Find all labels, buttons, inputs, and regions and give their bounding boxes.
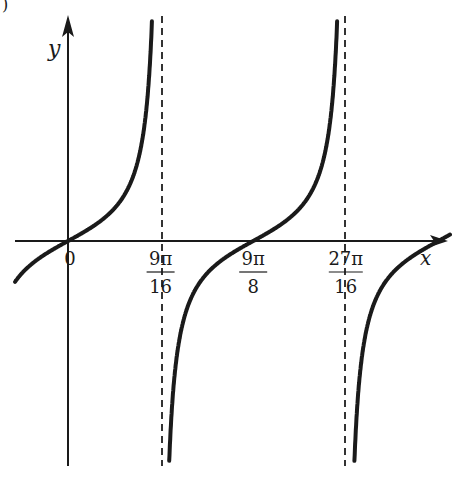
x-tick-labels: 09π169π827π16 [64,248,363,297]
tick-denominator: 16 [149,276,172,297]
tangent-branch [15,21,152,282]
part-label: ) [2,0,8,14]
y-axis-label: y [47,36,61,61]
tick-numerator: 27π [328,248,363,269]
tick-denominator: 8 [247,276,258,297]
tangent-graph: ) 09π169π827π16 y x [0,0,452,484]
tick-label: 0 [64,248,75,269]
x-axis-label: x [420,246,431,270]
tick-denominator: 16 [334,276,357,297]
tick-numerator: 9π [149,248,172,269]
tick-numerator: 9π [242,248,265,269]
tangent-branch [354,235,450,461]
x-axis [15,235,448,247]
